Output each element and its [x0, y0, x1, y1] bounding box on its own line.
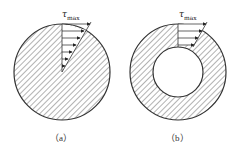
caption-b: （b） [166, 131, 189, 144]
figure-a-solid-section [14, 22, 110, 120]
hollow-inner-boundary [153, 47, 203, 97]
figure-b-hollow-section [130, 22, 226, 120]
torsion-stress-diagram [0, 0, 241, 150]
tau-max-label-a: τmax [62, 9, 80, 21]
caption-a: （a） [50, 131, 72, 144]
tau-max-label-b: τmax [179, 9, 197, 21]
